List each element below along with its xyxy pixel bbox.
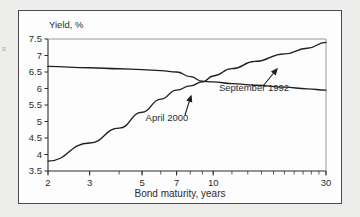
x-axis-title: Bond maturity, years (19, 188, 341, 199)
page-background: s Yield, % 7.576.565.554.543.5 23571030 … (0, 0, 360, 217)
y-tick-label: 5.5 (29, 99, 42, 110)
yield-curve-chart: 7.576.565.554.543.5 23571030 September 1… (19, 11, 340, 202)
x-tick-label: 3 (87, 177, 92, 188)
y-tick-label: 5 (37, 116, 42, 127)
y-tick-label: 7 (37, 50, 42, 61)
y-tick-label: 7.5 (29, 33, 42, 44)
page-edge-glyph: s (2, 44, 9, 53)
x-tick-label: 10 (208, 177, 219, 188)
series-line (48, 42, 326, 161)
x-tick-label: 7 (174, 177, 179, 188)
x-tick-label: 2 (45, 177, 50, 188)
y-tick-label: 4.5 (29, 132, 42, 143)
chart-series (48, 42, 326, 161)
x-tick-label: 30 (321, 177, 332, 188)
chart-frame (48, 39, 326, 171)
y-tick-label: 6.5 (29, 66, 42, 77)
annotation-arrowhead (187, 96, 191, 102)
y-tick-label: 3.5 (29, 165, 42, 176)
chart-ticks-x: 23571030 (45, 171, 331, 188)
y-tick-label: 6 (37, 83, 42, 94)
figure-container: Yield, % 7.576.565.554.543.5 23571030 Se… (18, 10, 342, 204)
y-tick-label: 4 (37, 149, 42, 160)
series-annotation-label: September 1992 (219, 82, 289, 93)
x-tick-label: 5 (139, 177, 144, 188)
series-annotation-label: April 2000 (146, 112, 189, 123)
chart-ticks-y: 7.576.565.554.543.5 (29, 33, 48, 176)
